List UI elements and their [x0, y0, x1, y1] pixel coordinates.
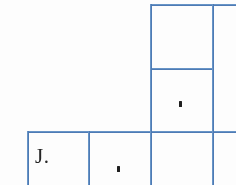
- bottom-initial-label: J.: [35, 146, 49, 167]
- scanned-table-fragment: J.: [0, 0, 236, 185]
- rule-col-right: [212, 4, 214, 185]
- rule-col-left: [27, 131, 29, 185]
- rule-top-full: [150, 4, 236, 6]
- rule-mid-right: [150, 68, 214, 70]
- rule-col-inner-left: [88, 131, 90, 185]
- bottom-middle-mark: [117, 166, 120, 172]
- rule-col-center: [150, 4, 152, 185]
- rule-bottom-band: [27, 131, 236, 133]
- middle-right-mark: [179, 101, 182, 107]
